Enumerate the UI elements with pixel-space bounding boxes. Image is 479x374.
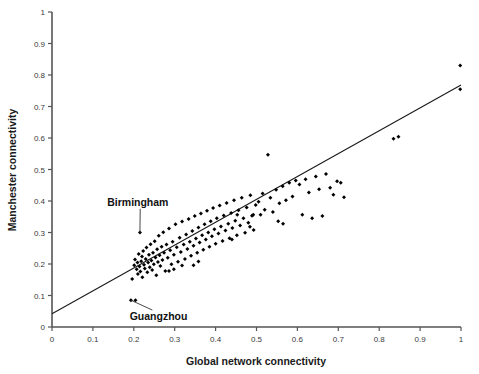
data-point: [180, 264, 184, 268]
data-point: [141, 249, 145, 253]
data-point: [243, 231, 247, 235]
y-tick-label: 0.6: [34, 134, 46, 143]
data-point: [241, 216, 245, 220]
data-point: [209, 219, 213, 223]
data-point: [238, 224, 242, 228]
y-axis-ticks: 00.10.20.30.40.50.60.70.80.91: [34, 8, 52, 332]
data-point: [246, 221, 250, 225]
x-tick-label: 0.5: [251, 335, 263, 344]
data-point: [140, 254, 144, 258]
scatter-chart: 00.10.20.30.40.50.60.70.80.91 00.10.20.3…: [0, 0, 479, 374]
data-point: [180, 219, 184, 223]
data-point: [310, 216, 314, 220]
data-point: [143, 266, 147, 270]
data-point: [149, 242, 153, 246]
data-point: [226, 222, 230, 226]
data-point: [266, 153, 270, 157]
data-point: [160, 258, 164, 262]
y-tick-label: 0: [41, 323, 46, 332]
data-point: [204, 237, 208, 241]
data-point: [196, 225, 200, 229]
data-point: [248, 225, 252, 229]
data-point: [155, 247, 159, 251]
data-point: [342, 195, 346, 199]
data-point: [203, 222, 207, 226]
chart-canvas: 00.10.20.30.40.50.60.70.80.91 00.10.20.3…: [0, 0, 479, 374]
data-point: [187, 217, 191, 221]
annotation-label: Birmingham: [107, 196, 168, 208]
data-point: [174, 222, 178, 226]
y-tick-label: 0.4: [34, 197, 46, 206]
data-point: [179, 250, 183, 254]
data-point: [223, 229, 227, 233]
data-point: [215, 216, 219, 220]
data-point: [147, 253, 151, 257]
data-point: [156, 260, 160, 264]
data-point: [172, 267, 176, 271]
data-point: [210, 234, 214, 238]
data-point: [206, 231, 210, 235]
data-point: [193, 214, 197, 218]
data-point: [199, 212, 203, 216]
data-point: [140, 275, 144, 279]
y-tick-label: 0.3: [34, 229, 46, 238]
annotation-leader-line: [131, 300, 152, 310]
data-point: [163, 269, 167, 273]
data-point: [297, 183, 301, 187]
data-point: [200, 233, 204, 237]
y-tick-label: 0.5: [34, 166, 46, 175]
data-point: [230, 226, 234, 230]
data-point: [232, 198, 236, 202]
data-point: [185, 247, 189, 251]
data-point: [166, 256, 170, 260]
data-point: [216, 231, 220, 235]
data-point: [178, 236, 182, 240]
data-point: [188, 240, 192, 244]
data-point: [205, 209, 209, 213]
data-point: [176, 260, 180, 264]
data-point: [150, 268, 154, 272]
x-tick-label: 0.9: [415, 335, 427, 344]
data-point: [218, 203, 222, 207]
data-point: [184, 232, 188, 236]
y-tick-label: 0.2: [34, 260, 46, 269]
y-axis-title: Manchester connectivity: [6, 109, 18, 232]
data-point: [335, 179, 339, 183]
data-point: [136, 272, 140, 276]
data-point: [458, 87, 462, 91]
data-point: [169, 262, 173, 266]
data-point: [167, 226, 171, 230]
data-point: [324, 172, 328, 176]
data-point: [153, 255, 157, 259]
data-point: [276, 219, 280, 223]
x-tick-label: 0.8: [374, 335, 386, 344]
data-point: [133, 258, 137, 262]
data-point: [328, 186, 332, 190]
data-point: [392, 137, 396, 141]
data-point: [137, 252, 141, 256]
y-tick-label: 0.9: [34, 40, 46, 49]
data-point: [277, 201, 281, 205]
x-tick-label: 0.2: [128, 335, 140, 344]
data-point: [240, 196, 244, 200]
data-point: [252, 228, 256, 232]
y-tick-label: 0.7: [34, 103, 46, 112]
data-point: [304, 177, 308, 181]
data-point: [259, 213, 263, 217]
y-tick-label: 1: [41, 8, 46, 17]
data-point: [458, 64, 462, 68]
x-tick-label: 1: [459, 335, 464, 344]
data-point: [158, 264, 162, 268]
data-point: [320, 214, 324, 218]
data-point: [195, 251, 199, 255]
data-point: [263, 208, 267, 212]
data-point: [192, 263, 196, 267]
data-point: [165, 242, 169, 246]
data-point: [307, 190, 311, 194]
data-point: [281, 184, 285, 188]
data-point: [138, 270, 142, 274]
data-point: [284, 198, 288, 202]
data-point: [148, 265, 152, 269]
data-point: [219, 225, 223, 229]
x-axis-ticks: 00.10.20.30.40.50.60.70.80.91: [50, 327, 464, 344]
